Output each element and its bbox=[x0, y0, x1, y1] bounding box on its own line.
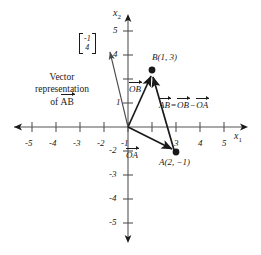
y-tick-label-1: 1 bbox=[116, 98, 121, 107]
coordinate-plane-svg bbox=[0, 0, 261, 255]
y-tick-label--3: -3 bbox=[109, 170, 117, 179]
column-vector-notation: -1 4 bbox=[79, 33, 96, 58]
caption-line-3: of AB bbox=[18, 96, 106, 109]
x-tick-label--3: -3 bbox=[73, 139, 81, 148]
vector-AB-translated-arrow bbox=[110, 52, 128, 127]
x-tick-label-5: 5 bbox=[222, 139, 227, 148]
caption-vector-AB: AB bbox=[61, 96, 74, 109]
x-tick-label-4: 4 bbox=[198, 139, 203, 148]
vector-equation: AB=OB−OA bbox=[159, 100, 208, 110]
vector-AB-arrow bbox=[153, 77, 174, 150]
x-tick-label-3: 3 bbox=[174, 139, 179, 148]
x-tick-label--4: -4 bbox=[49, 139, 57, 148]
point-B-dot bbox=[149, 67, 156, 74]
vector-OA-label: OA bbox=[126, 150, 138, 160]
y-axis-label: x2 bbox=[113, 8, 121, 21]
y-tick-label--4: -4 bbox=[109, 194, 117, 203]
caption-line-1: Vector bbox=[18, 72, 106, 84]
bracket-right-icon bbox=[92, 33, 96, 54]
equation-term-1: OB bbox=[177, 100, 189, 110]
y-tick-label-5: 5 bbox=[113, 26, 118, 35]
vector-OB-label: OB bbox=[129, 84, 141, 94]
x-tick-label--2: -2 bbox=[97, 139, 105, 148]
caption-vector-representation: Vector representation of AB bbox=[18, 72, 106, 109]
equation-term-2: OA bbox=[196, 100, 208, 110]
y-tick-label-4: 4 bbox=[113, 50, 118, 59]
x-tick-label--5: -5 bbox=[25, 139, 33, 148]
vector-OA-arrow bbox=[128, 127, 172, 149]
y-tick-label--2: -2 bbox=[109, 146, 117, 155]
equation-equals: = bbox=[170, 100, 177, 110]
vector-diagram-figure: x2 x1 -5 -4 -3 -2 -1 3 4 5 5 4 1 -2 -3 -… bbox=[0, 0, 261, 255]
x-axis-label: x1 bbox=[234, 131, 242, 144]
y-tick-label--5: -5 bbox=[109, 218, 117, 227]
equation-minus: − bbox=[189, 100, 196, 110]
point-A-dot bbox=[173, 149, 180, 156]
point-B-label: B(1, 3) bbox=[152, 53, 177, 62]
point-A-label: A(2, −1) bbox=[159, 158, 190, 167]
column-vector-bottom-value: 4 bbox=[85, 44, 89, 53]
caption-of-text: of bbox=[50, 97, 60, 107]
equation-lhs: AB bbox=[159, 100, 170, 110]
